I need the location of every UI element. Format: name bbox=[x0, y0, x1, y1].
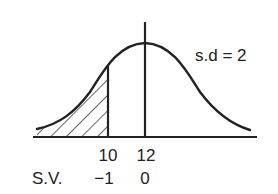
standard-value-zero: 0 bbox=[140, 169, 149, 188]
sd-annotation: s.d = 2 bbox=[195, 46, 247, 65]
standard-value-minus1: −1 bbox=[94, 169, 113, 188]
tick-label-10: 10 bbox=[99, 146, 118, 165]
tick-label-12: 12 bbox=[137, 146, 156, 165]
normal-distribution-diagram: s.d = 2 10 12 S.V. −1 0 bbox=[0, 0, 278, 194]
standard-value-label: S.V. bbox=[32, 169, 63, 188]
